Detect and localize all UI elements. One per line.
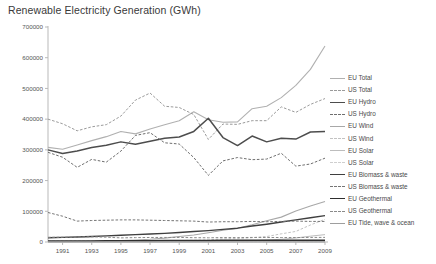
y-tick-label: 700000 [22, 23, 43, 30]
legend-label-eu-hydro: EU Hydro [348, 98, 376, 106]
legend-item-eu-hydro[interactable]: EU Hydro [330, 96, 436, 108]
legend-swatch-eu-hydro [330, 99, 345, 106]
legend-label-eu-tide-wave-ocean: EU Tide, wave & ocean [348, 219, 414, 227]
legend-swatch-us-geothermal [330, 208, 345, 215]
legend-swatch-eu-total [330, 75, 345, 82]
y-tick-label: 600000 [22, 54, 43, 61]
series-line-us-biomass-waste [48, 213, 325, 223]
legend-swatch-eu-biomass-waste [330, 171, 345, 178]
legend-swatch-eu-wind [330, 123, 345, 130]
legend-swatch-us-total [330, 87, 345, 94]
legend-swatch-eu-tide-wave-ocean [330, 220, 345, 227]
legend-item-us-solar[interactable]: US Solar [330, 157, 436, 169]
legend-label-eu-total: EU Total [348, 74, 372, 82]
legend-label-us-hydro: US Hydro [348, 110, 376, 118]
legend-label-us-total: US Total [348, 86, 372, 94]
legend-label-eu-wind: EU Wind [348, 122, 373, 130]
legend-label-us-wind: US Wind [348, 135, 373, 143]
legend-item-us-biomass-waste[interactable]: US Biomass & waste [330, 181, 436, 193]
legend-item-eu-total[interactable]: EU Total [330, 72, 436, 84]
x-tick-label: 2001 [201, 247, 215, 254]
series-line-eu-geothermal [48, 240, 325, 241]
series-line-eu-hydro [48, 118, 325, 153]
y-tick-label: 100000 [22, 208, 43, 215]
y-tick-label: 200000 [22, 177, 43, 184]
x-tick-label: 2005 [260, 247, 274, 254]
legend-swatch-us-wind [330, 135, 345, 142]
chart-legend: EU TotalUS TotalEU HydroUS HydroEU WindU… [330, 72, 436, 229]
legend-item-eu-biomass-waste[interactable]: EU Biomass & waste [330, 169, 436, 181]
legend-item-us-wind[interactable]: US Wind [330, 132, 436, 144]
legend-item-us-geothermal[interactable]: US Geothermal [330, 205, 436, 217]
legend-label-us-solar: US Solar [348, 159, 374, 167]
legend-swatch-us-hydro [330, 111, 345, 118]
legend-label-eu-biomass-waste: EU Biomass & waste [348, 171, 408, 179]
legend-label-eu-geothermal: EU Geothermal [348, 195, 392, 203]
legend-item-eu-solar[interactable]: EU Solar [330, 145, 436, 157]
legend-item-eu-tide-wave-ocean[interactable]: EU Tide, wave & ocean [330, 217, 436, 229]
legend-item-eu-wind[interactable]: EU Wind [330, 120, 436, 132]
legend-label-us-geothermal: US Geothermal [348, 207, 392, 215]
legend-item-eu-geothermal[interactable]: EU Geothermal [330, 193, 436, 205]
legend-swatch-eu-geothermal [330, 195, 345, 202]
legend-item-us-total[interactable]: US Total [330, 84, 436, 96]
y-tick-label: 400000 [22, 115, 43, 122]
x-tick-label: 1991 [56, 247, 70, 254]
legend-swatch-eu-solar [330, 147, 345, 154]
series-line-eu-biomass-waste [48, 216, 325, 238]
legend-item-us-hydro[interactable]: US Hydro [330, 108, 436, 120]
y-tick-label: 0 [40, 238, 44, 245]
y-tick-label: 500000 [22, 85, 43, 92]
y-tick-label: 300000 [22, 146, 43, 153]
legend-swatch-us-solar [330, 159, 345, 166]
x-tick-label: 1997 [143, 247, 157, 254]
chart-container: Renewable Electricity Generation (GWh) 0… [0, 0, 436, 264]
x-tick-label: 2009 [318, 247, 332, 254]
x-tick-label: 1995 [114, 247, 128, 254]
legend-label-eu-solar: EU Solar [348, 147, 374, 155]
legend-label-us-biomass-waste: US Biomass & waste [348, 183, 408, 191]
x-tick-label: 2003 [231, 247, 245, 254]
x-tick-label: 1993 [85, 247, 99, 254]
x-tick-label: 1999 [172, 247, 186, 254]
x-tick-label: 2007 [289, 247, 303, 254]
legend-swatch-us-biomass-waste [330, 183, 345, 190]
